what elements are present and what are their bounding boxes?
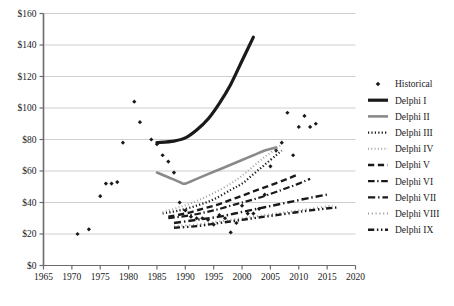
legend-item-label: Delphi I — [395, 96, 426, 106]
x-tick-label: 1965 — [34, 272, 53, 282]
x-tick-label: 1985 — [147, 272, 166, 282]
legend-item-label: Delphi II — [395, 112, 430, 122]
y-tick-label: $0 — [27, 261, 37, 271]
legend-item-label: Delphi V — [395, 160, 430, 170]
legend-item-label: Delphi IX — [395, 225, 433, 235]
y-tick-label: $60 — [22, 166, 37, 176]
legend-item-label: Historical — [395, 79, 433, 89]
x-tick-label: 2000 — [233, 272, 252, 282]
y-tick-label: $20 — [22, 229, 37, 239]
y-tick-label: $140 — [18, 40, 37, 50]
legend-item-label: Delphi VI — [395, 177, 433, 187]
y-tick-label: $160 — [18, 9, 37, 19]
chart-container: $0$20$40$60$80$100$120$140$160 196519701… — [0, 0, 454, 306]
x-tick-label: 1990 — [176, 272, 195, 282]
legend-item-label: Delphi IV — [395, 144, 433, 154]
y-tick-label: $40 — [22, 198, 37, 208]
x-tick-label: 2005 — [261, 272, 280, 282]
y-tick-label: $80 — [22, 135, 37, 145]
x-tick-label: 1970 — [62, 272, 81, 282]
y-tick-label: $120 — [18, 72, 37, 82]
y-tick-label: $100 — [18, 103, 37, 113]
x-tick-label: 1975 — [91, 272, 110, 282]
x-tick-label: 2020 — [346, 272, 365, 282]
chart-background — [0, 0, 454, 306]
forecast-line-chart: $0$20$40$60$80$100$120$140$160 196519701… — [0, 0, 454, 306]
x-tick-label: 2010 — [289, 272, 308, 282]
x-tick-label: 2015 — [318, 272, 337, 282]
x-tick-label: 1980 — [119, 272, 138, 282]
legend-item-label: Delphi III — [395, 128, 433, 138]
x-tick-label: 1995 — [204, 272, 223, 282]
legend-item-label: Delphi VII — [395, 193, 436, 203]
legend-item-label: Delphi VIII — [395, 209, 439, 219]
